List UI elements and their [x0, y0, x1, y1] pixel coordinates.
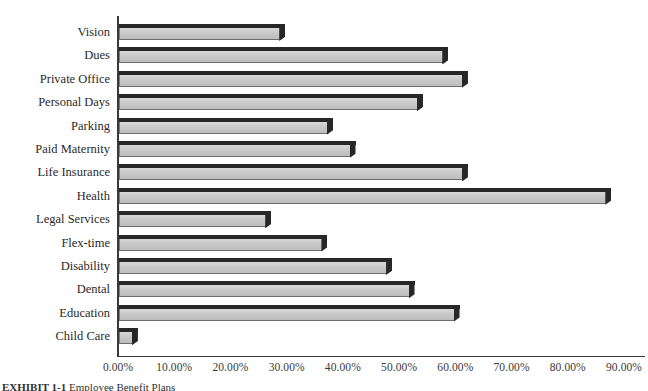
caption-text: Employee Benefit Plans: [69, 381, 175, 391]
chart-figure: VisionDuesPrivate OfficePersonal DaysPar…: [0, 0, 648, 391]
x-tick-label: 90.00%: [594, 360, 648, 374]
bar-side-edge: [454, 305, 460, 322]
bar-row: Health: [0, 185, 648, 208]
bar-disability: [119, 258, 392, 275]
bar-education: [119, 305, 460, 322]
bar-health: [119, 188, 611, 205]
x-tick-label: 40.00%: [313, 360, 373, 374]
bar-row: Parking: [0, 115, 648, 138]
bar-top-edge: [119, 281, 415, 285]
bar-row: Dues: [0, 44, 648, 67]
bar-row: Education: [0, 302, 648, 325]
bar-top-edge: [119, 164, 468, 168]
bar-top-edge: [119, 188, 611, 192]
bar-row: Child Care: [0, 325, 648, 348]
bar-face: [119, 122, 328, 134]
bar-row: Life Insurance: [0, 161, 648, 184]
bar-top-edge: [119, 71, 468, 75]
bar-face: [119, 168, 463, 180]
x-tick-label: 30.00%: [257, 360, 317, 374]
bar-row: Personal Days: [0, 91, 648, 114]
bar-vision: [119, 24, 285, 41]
bar-top-edge: [119, 24, 285, 28]
bar-face: [119, 239, 322, 251]
bar-personal-days: [119, 94, 423, 111]
bar-dues: [119, 47, 448, 64]
bar-paid-maternity: [119, 141, 356, 158]
bar-face: [119, 51, 443, 63]
bar-child-care: [119, 328, 138, 345]
category-label-disability: Disability: [0, 255, 110, 278]
bar-face: [119, 309, 455, 321]
bar-side-edge: [462, 71, 468, 88]
bar-side-edge: [417, 94, 423, 111]
x-tick-label: 70.00%: [482, 360, 542, 374]
bar-row: Dental: [0, 278, 648, 301]
category-label-paid-maternity: Paid Maternity: [0, 138, 110, 161]
bar-parking: [119, 118, 333, 135]
bar-top-edge: [119, 235, 327, 239]
category-label-health: Health: [0, 185, 110, 208]
bar-top-edge: [119, 118, 333, 122]
x-axis-line: [117, 356, 645, 357]
bar-side-edge: [350, 141, 356, 158]
category-label-life-insurance: Life Insurance: [0, 161, 110, 184]
x-tick-label: 0.00%: [88, 360, 148, 374]
bar-face: [119, 28, 280, 40]
bar-side-edge: [321, 235, 327, 252]
bar-top-edge: [119, 94, 423, 98]
bar-life-insurance: [119, 164, 468, 181]
bar-face: [119, 98, 418, 110]
category-label-dues: Dues: [0, 44, 110, 67]
x-tick-label: 80.00%: [538, 360, 598, 374]
bar-row: Private Office: [0, 68, 648, 91]
bar-side-edge: [442, 47, 448, 64]
x-tick-label: 60.00%: [425, 360, 485, 374]
bar-face: [119, 192, 606, 204]
plot-area: VisionDuesPrivate OfficePersonal DaysPar…: [0, 0, 648, 391]
bar-face: [119, 215, 266, 227]
bar-side-edge: [327, 118, 333, 135]
bar-row: Vision: [0, 21, 648, 44]
bar-face: [119, 262, 387, 274]
bar-legal-services: [119, 211, 271, 228]
bar-top-edge: [119, 258, 392, 262]
bar-side-edge: [605, 188, 611, 205]
category-label-legal-services: Legal Services: [0, 208, 110, 231]
category-label-parking: Parking: [0, 115, 110, 138]
category-label-vision: Vision: [0, 21, 110, 44]
bar-top-edge: [119, 47, 448, 51]
bar-flex-time: [119, 235, 327, 252]
bar-side-edge: [462, 164, 468, 181]
category-label-education: Education: [0, 302, 110, 325]
bar-side-edge: [265, 211, 271, 228]
x-tick-label: 20.00%: [200, 360, 260, 374]
bar-dental: [119, 281, 415, 298]
bar-side-edge: [279, 24, 285, 41]
bar-face: [119, 75, 463, 87]
bar-side-edge: [386, 258, 392, 275]
bar-face: [119, 145, 351, 157]
bar-row: Flex-time: [0, 232, 648, 255]
category-label-dental: Dental: [0, 278, 110, 301]
bar-side-edge: [132, 328, 138, 345]
x-tick-label: 50.00%: [369, 360, 429, 374]
category-label-personal-days: Personal Days: [0, 91, 110, 114]
bar-top-edge: [119, 211, 271, 215]
x-tick-label: 10.00%: [144, 360, 204, 374]
figure-caption: EXHIBIT 1-1 Employee Benefit Plans: [2, 381, 642, 391]
bar-top-edge: [119, 141, 356, 145]
caption-figure-label: EXHIBIT 1-1: [2, 381, 66, 391]
bar-face: [119, 285, 410, 297]
bar-row: Legal Services: [0, 208, 648, 231]
category-label-child-care: Child Care: [0, 325, 110, 348]
bar-face: [119, 332, 133, 344]
bar-row: Paid Maternity: [0, 138, 648, 161]
category-label-private-office: Private Office: [0, 68, 110, 91]
bar-row: Disability: [0, 255, 648, 278]
bar-private-office: [119, 71, 468, 88]
category-label-flex-time: Flex-time: [0, 232, 110, 255]
bar-side-edge: [409, 281, 415, 298]
bar-top-edge: [119, 305, 460, 309]
